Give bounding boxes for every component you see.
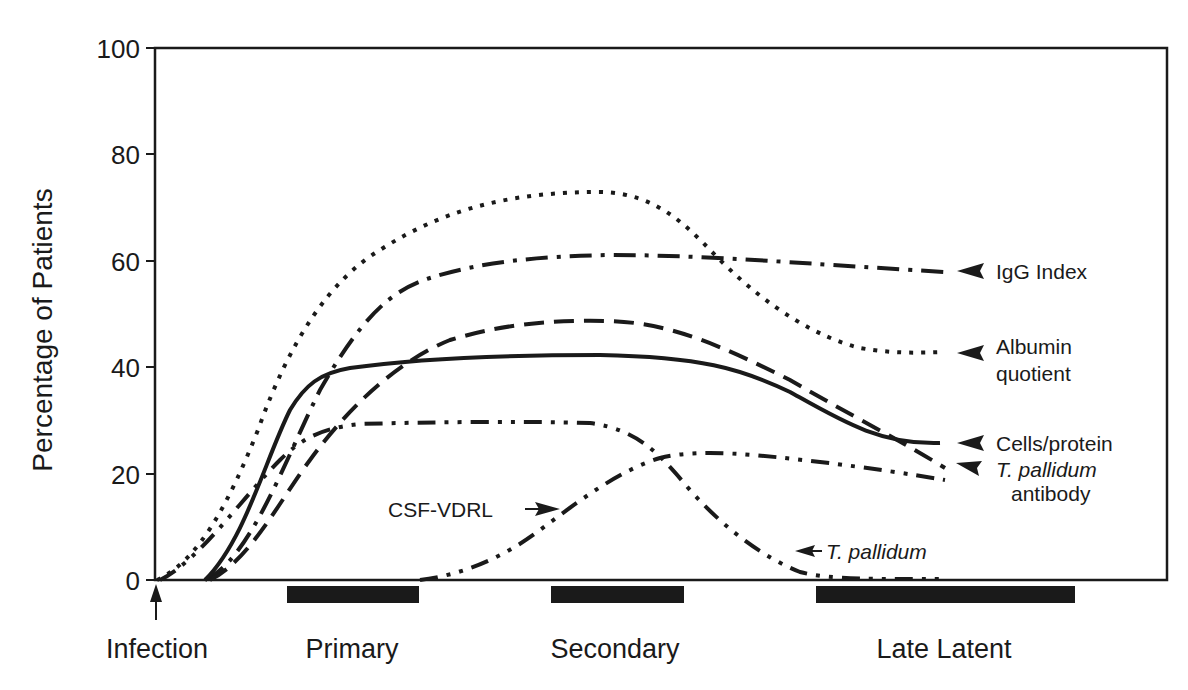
y-tick-100: 100 (97, 34, 140, 64)
label-antibody-line1: T. pallidum (996, 458, 1097, 481)
series-labels: IgG Index Albumin quotient Cells/protein… (388, 260, 1113, 563)
label-antibody-line2: antibody (1011, 482, 1091, 505)
label-csf-vdrl: CSF-VDRL (388, 498, 493, 521)
stage-label-primary: Primary (306, 634, 399, 664)
infection-arrow-icon (150, 584, 162, 620)
label-albumin-line1: Albumin (996, 335, 1072, 358)
arrow-left-icon (957, 435, 984, 451)
stage-label-late-latent: Late Latent (876, 634, 1012, 664)
y-tick-80: 80 (111, 140, 140, 170)
y-axis-tick-labels: 0 20 40 60 80 100 (97, 34, 140, 596)
arrow-left-icon (956, 461, 982, 476)
stage-label-secondary: Secondary (550, 634, 680, 664)
stage-labels: Infection Primary Secondary Late Latent (106, 634, 1012, 664)
arrow-left-icon (957, 345, 984, 361)
stage-bars (287, 586, 1075, 603)
y-axis-title: Percentage of Patients (27, 188, 58, 471)
label-albumin-line2: quotient (996, 362, 1071, 385)
label-t-pallidum: T. pallidum (826, 540, 927, 563)
series-albumin-quotient (157, 192, 945, 580)
y-tick-60: 60 (111, 247, 140, 277)
label-cells-protein: Cells/protein (996, 432, 1113, 455)
y-tick-0: 0 (126, 566, 140, 596)
stage-bar-primary (287, 586, 419, 603)
stage-bar-secondary (551, 586, 684, 603)
arrow-left-icon (957, 263, 984, 279)
stage-bar-late-latent (816, 586, 1075, 603)
stage-label-infection: Infection (106, 634, 208, 664)
y-axis-ticks (146, 48, 155, 580)
chart-figure: 0 20 40 60 80 100 Percentage of Patients… (0, 0, 1188, 690)
y-tick-20: 20 (111, 460, 140, 490)
label-igg-index: IgG Index (996, 260, 1088, 283)
y-tick-40: 40 (111, 353, 140, 383)
label-arrows (525, 263, 984, 557)
